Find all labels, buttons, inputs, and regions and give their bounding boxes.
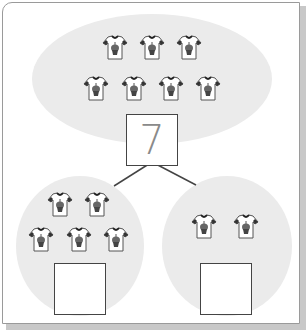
tshirt-icon [121, 75, 147, 101]
tshirt-icon [28, 226, 54, 252]
whole-value: 7 [139, 117, 164, 163]
tshirt-icon [83, 75, 109, 101]
tshirt-icon [233, 213, 259, 239]
tshirt-icon [176, 34, 202, 60]
part-right-answer-box[interactable] [200, 263, 252, 315]
tshirt-icon [195, 75, 221, 101]
part-left-answer-box[interactable] [54, 263, 106, 315]
tshirt-icon [66, 226, 92, 252]
tshirt-icon [47, 191, 73, 217]
tshirt-icon [191, 213, 217, 239]
tshirt-icon [84, 191, 110, 217]
whole-number-box: 7 [126, 114, 178, 166]
tshirt-icon [158, 75, 184, 101]
tshirt-icon [103, 226, 129, 252]
tshirt-icon [102, 34, 128, 60]
tshirt-icon [139, 34, 165, 60]
